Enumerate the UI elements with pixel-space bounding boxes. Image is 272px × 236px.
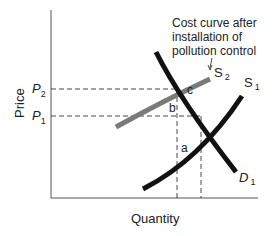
y-axis-label: Price [12, 88, 27, 118]
annotation: Cost curve after installation of polluti… [172, 16, 257, 70]
point-c-label: c [187, 83, 193, 97]
point-b-label: b [169, 101, 176, 115]
supply-demand-diagram: Cost curve after installation of polluti… [0, 0, 272, 236]
annotation-line-3: pollution control [172, 44, 256, 58]
x-axis-label: Quantity [131, 211, 180, 226]
annotation-line-1: Cost curve after [172, 16, 257, 30]
p1-label: P1 [32, 108, 46, 126]
point-a-label: a [181, 141, 188, 155]
d1-label: D1 [239, 170, 255, 187]
s1-label: S1 [244, 75, 260, 92]
annotation-line-2: installation of [172, 30, 243, 44]
p2-label: P2 [32, 81, 46, 99]
s2-label: S2 [214, 65, 230, 82]
guide-lines [51, 89, 201, 198]
